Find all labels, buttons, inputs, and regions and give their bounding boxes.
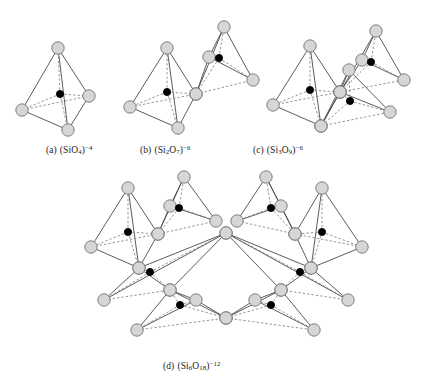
tetra-edge-hidden [130, 94, 196, 107]
oxygen-atom [220, 227, 232, 239]
tetra-edge-hidden [226, 318, 314, 330]
caption-b-open: (Si [154, 145, 165, 155]
caption-structure-c: (c)(Si3O9)−6 [253, 144, 303, 155]
tetra-edge [91, 188, 128, 247]
tetra-edge [237, 177, 266, 221]
oxygen-atom [343, 64, 355, 76]
tetra-edge [226, 233, 281, 290]
oxygen-atom [210, 215, 222, 227]
structure-a-orthosilicate-single-tetrahedron [16, 42, 95, 136]
silicon-atom [163, 88, 170, 95]
oxygen-atom [172, 122, 184, 134]
oxygen-atom [178, 171, 190, 183]
oxygen-atom [218, 21, 230, 33]
oxygen-atom [164, 284, 176, 296]
tetra-edge [128, 188, 139, 268]
tetra-edge-hidden [91, 234, 158, 247]
tetra-edge [273, 105, 321, 126]
silicate-structures-figure: (a)(SiO4)−4 (b)(Si2O7)−6 (c)(Si3O9)−6 (d… [0, 0, 423, 388]
structure-c-cyclic-trisilicate-ring [267, 25, 410, 132]
oxygen-atom [16, 104, 28, 116]
oxygen-atom [398, 74, 410, 86]
oxygen-atom [315, 120, 327, 132]
caption-structure-b: (b)(Si2O7)−6 [140, 144, 191, 155]
oxygen-atom [356, 54, 368, 66]
tetra-edge-hidden [295, 234, 362, 247]
oxygen-atom [275, 200, 287, 212]
oxygen-atom [131, 324, 143, 336]
tetra-edge [273, 46, 310, 105]
silicon-atom [318, 228, 325, 235]
oxygen-atom [203, 51, 215, 63]
silicon-atom [267, 301, 274, 308]
tetra-edge-hidden [137, 318, 226, 330]
silicon-atom [176, 301, 183, 308]
atoms-b [124, 21, 259, 134]
tetra-edge [310, 46, 321, 126]
oxygen-atom [152, 228, 164, 240]
oxygen-atom [52, 42, 64, 54]
structure-b-pyrosilicate-double-tetrahedron [124, 21, 259, 134]
caption-structure-d: (d)(Si6O18)−12 [163, 360, 221, 371]
tetra-edge [376, 31, 404, 80]
caption-c-charge: −6 [296, 144, 303, 151]
si-o-bond [104, 272, 150, 300]
oxygen-atom [305, 262, 317, 274]
tetra-edge [22, 110, 68, 130]
tetra-edge [255, 300, 314, 330]
tetra-edge [130, 48, 167, 107]
atoms-d [85, 171, 368, 336]
tetra-edge [130, 107, 178, 128]
silicon-atom [296, 268, 303, 275]
silicon-atom [146, 268, 153, 275]
oxygen-atom [289, 228, 301, 240]
tetra-edge [167, 48, 178, 128]
oxygen-atom [98, 294, 110, 306]
tetra-edge [184, 177, 216, 221]
tetra-edge-hidden [22, 96, 89, 110]
oxygen-atom [267, 99, 279, 111]
tetra-edge-hidden [321, 112, 390, 126]
caption-d-charge: −12 [210, 360, 221, 367]
oxygen-atom [85, 241, 97, 253]
bond-edges-a [22, 48, 89, 130]
oxygen-atom [316, 182, 328, 194]
oxygen-atom [342, 294, 354, 306]
bond-edges-d [91, 177, 362, 330]
tetra-edge [167, 48, 196, 94]
tetra-edge [22, 48, 58, 110]
caption-a-open: (Si [60, 145, 71, 155]
tetra-edge [311, 247, 362, 268]
oxygen-atom [190, 294, 202, 306]
silicon-atom [367, 58, 374, 65]
silicon-atom [306, 86, 313, 93]
caption-c-tag: (c) [253, 145, 264, 155]
oxygen-atom [334, 86, 346, 98]
caption-a-charge: −4 [85, 144, 92, 151]
oxygen-atom [62, 124, 74, 136]
caption-c-open: (Si [267, 145, 278, 155]
atoms-c [267, 25, 410, 132]
caption-structure-a: (a)(SiO4)−4 [46, 144, 92, 155]
tetra-edge [137, 290, 170, 330]
caption-d-open: (Si [177, 361, 188, 371]
oxygen-atom [231, 215, 243, 227]
oxygen-atom [124, 101, 136, 113]
silicon-atom [175, 204, 182, 211]
oxygen-atom [220, 312, 232, 324]
bond-edges-b [130, 27, 253, 128]
tetra-edge [139, 233, 226, 268]
oxygen-atom [275, 284, 287, 296]
oxygen-atom [308, 324, 320, 336]
oxygen-atom [249, 294, 261, 306]
tetra-edge [91, 247, 139, 268]
oxygen-atom [161, 42, 173, 54]
tetra-edge [310, 46, 340, 92]
silicon-atom [215, 54, 222, 61]
tetra-edge [322, 188, 362, 247]
oxygen-atom [190, 88, 202, 100]
oxygen-atom [384, 106, 396, 118]
oxygen-atom [260, 171, 272, 183]
tetra-edge [137, 300, 196, 330]
oxygen-atom [164, 200, 176, 212]
